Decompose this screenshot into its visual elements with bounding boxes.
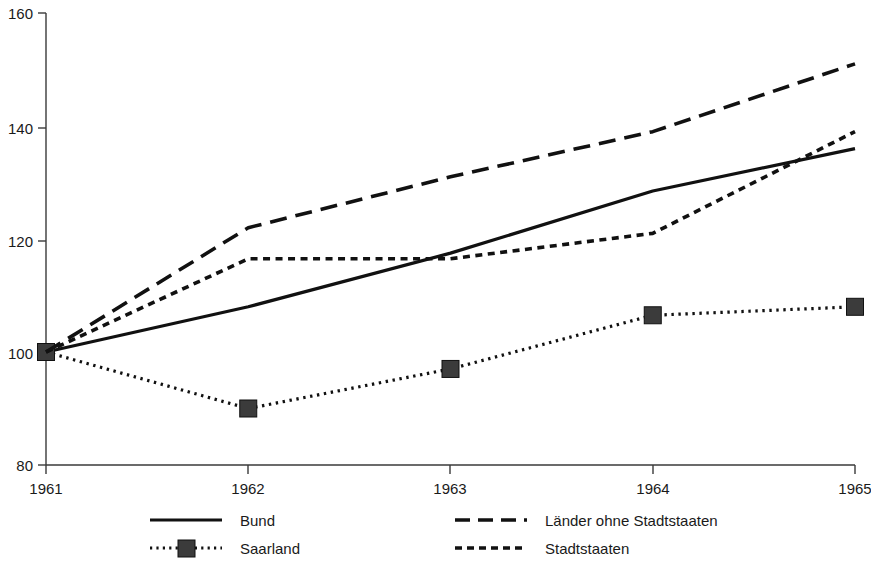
chart-container: 160 140 120 100 80 1961 1962 1963 1964 1… [0, 0, 871, 561]
series-line-bund [46, 149, 855, 352]
series-line-saarland [46, 307, 855, 409]
y-tick-label-160: 160 [8, 5, 33, 22]
y-tick-label-140: 140 [8, 120, 33, 137]
x-tick-label-1963: 1963 [433, 480, 466, 497]
data-point-marker [442, 360, 459, 377]
data-point-marker [644, 307, 661, 324]
series-line-stadtstaaten [46, 132, 855, 352]
legend-label-laender-ohne-stadtstaaten: Länder ohne Stadtstaaten [545, 512, 718, 529]
x-axis-ticks [46, 465, 855, 474]
series-layer [38, 64, 864, 417]
x-tick-label-1964: 1964 [636, 480, 669, 497]
series-line-l-nder-ohne-stadtstaaten [46, 64, 855, 352]
legend-label-saarland: Saarland [240, 540, 300, 557]
y-tick-label-80: 80 [16, 457, 33, 474]
line-chart: 160 140 120 100 80 1961 1962 1963 1964 1… [0, 0, 871, 561]
y-tick-label-120: 120 [8, 233, 33, 250]
x-tick-label-1962: 1962 [231, 480, 264, 497]
x-tick-label-1965: 1965 [838, 480, 871, 497]
data-point-marker [240, 400, 257, 417]
y-axis-ticks [38, 13, 46, 465]
legend-label-bund: Bund [240, 512, 275, 529]
x-tick-label-1961: 1961 [29, 480, 62, 497]
data-point-marker [847, 298, 864, 315]
legend-label-stadtstaaten: Stadtstaaten [545, 540, 629, 557]
y-tick-label-100: 100 [8, 345, 33, 362]
chart-legend: Bund Länder ohne Stadtstaaten Saarland S… [150, 512, 718, 557]
legend-swatch-saarland-marker [178, 540, 195, 557]
